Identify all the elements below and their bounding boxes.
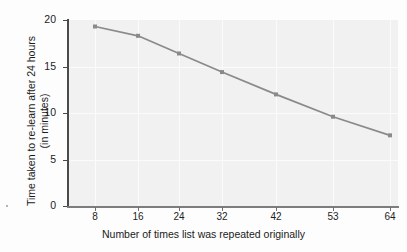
data-point [93,25,97,29]
x-tick-label: 8 [80,211,110,222]
scan-speck [6,205,8,207]
chart-figure: 05101520 8162432425364 Time taken to re-… [0,0,407,252]
x-tick-label: 24 [164,211,194,222]
line-path [95,27,390,136]
data-point [177,51,181,55]
y-axis [67,19,69,207]
data-point [220,70,224,74]
y-axis-label-line2: (in minutes) [38,26,51,216]
y-tick-mark [63,160,67,161]
y-tick-label: 20 [28,14,56,24]
y-tick-mark [63,67,67,68]
x-axis-label: Number of times list was repeated origin… [0,228,407,240]
data-point [331,115,335,119]
y-tick-mark [63,113,67,114]
x-tick-label: 42 [261,211,291,222]
x-tick-label: 16 [123,211,153,222]
x-tick-label: 32 [207,211,237,222]
data-point [136,34,140,38]
x-tick-label: 64 [375,211,405,222]
data-point [274,92,278,96]
y-tick-mark [63,20,67,21]
data-point [388,133,392,137]
x-tick-label: 53 [318,211,348,222]
data-series-line [68,20,398,206]
x-axis [67,206,399,208]
y-axis-label-line1: Time taken to re-learn after 24 hours [25,26,38,216]
y-axis-label: Time taken to re-learn after 24 hours (i… [25,26,51,216]
